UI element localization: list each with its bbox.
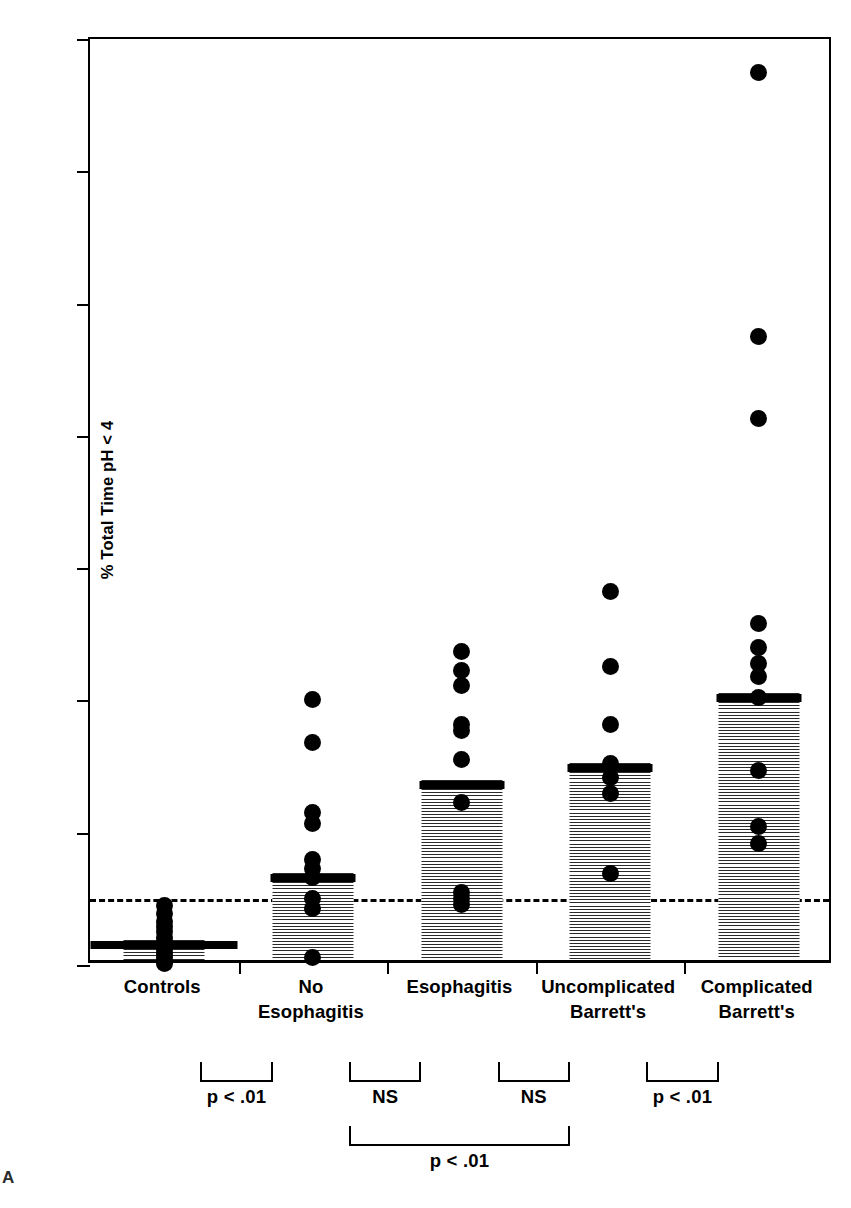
data-point	[304, 900, 321, 917]
figure-panel: % Total Time pH < 4 010203040506070 p < …	[0, 0, 851, 1208]
x-axis-category-label: ComplicatedBarrett's	[701, 974, 813, 1024]
data-point	[750, 410, 767, 427]
data-point	[750, 818, 767, 835]
x-axis-category-label-line: Controls	[124, 974, 201, 999]
x-axis-category-label: NoEsophagitis	[258, 974, 364, 1024]
x-axis-category-label-line: No	[258, 974, 364, 999]
y-axis-tick	[77, 39, 90, 41]
data-point	[304, 691, 321, 708]
significance-label: p < .01	[430, 1150, 490, 1172]
x-axis-category-label-line: Uncomplicated	[541, 974, 675, 999]
data-point	[602, 583, 619, 600]
data-point	[453, 896, 470, 913]
significance-label: p < .01	[207, 1086, 267, 1108]
data-point	[750, 328, 767, 345]
data-point	[304, 734, 321, 751]
data-point	[453, 751, 470, 768]
data-point	[453, 794, 470, 811]
x-axis-tick	[684, 960, 686, 974]
data-point	[453, 643, 470, 660]
significance-label: NS	[521, 1086, 547, 1108]
data-point	[304, 815, 321, 832]
data-point	[453, 662, 470, 679]
y-axis-tick	[77, 700, 90, 702]
y-axis-tick	[77, 833, 90, 835]
data-point	[750, 639, 767, 656]
data-point	[602, 865, 619, 882]
x-axis-tick	[536, 960, 538, 974]
data-point	[750, 615, 767, 632]
plot-area: 010203040506070	[90, 39, 829, 960]
data-point	[750, 64, 767, 81]
data-point	[602, 769, 619, 786]
y-axis-tick	[77, 171, 90, 173]
data-point	[453, 677, 470, 694]
significance-bracket	[646, 1062, 719, 1082]
data-point	[602, 716, 619, 733]
x-axis-category-label: Controls	[124, 974, 201, 999]
x-axis-category-label-line: Barrett's	[541, 999, 675, 1024]
data-point	[602, 785, 619, 802]
y-axis-tick	[77, 436, 90, 438]
data-point	[750, 668, 767, 685]
significance-bracket	[200, 1062, 273, 1082]
significance-bracket	[349, 1062, 422, 1082]
x-axis-tick	[239, 960, 241, 974]
x-axis-category-label-line: Barrett's	[701, 999, 813, 1024]
x-axis-tick	[387, 960, 389, 974]
y-axis-tick	[77, 568, 90, 570]
x-axis-category-label: UncomplicatedBarrett's	[541, 974, 675, 1024]
data-point	[156, 955, 173, 972]
panel-letter: A	[2, 1168, 14, 1188]
x-axis-category-label-line: Complicated	[701, 974, 813, 999]
data-point	[304, 949, 321, 966]
data-point	[750, 835, 767, 852]
plot-frame: % Total Time pH < 4 010203040506070	[88, 37, 831, 963]
data-point	[602, 658, 619, 675]
bar-mean-line	[419, 781, 504, 789]
y-axis-tick	[77, 965, 90, 967]
x-axis-category-label-line: Esophagitis	[407, 974, 513, 999]
x-axis-category-label: Esophagitis	[407, 974, 513, 999]
y-axis-tick	[77, 304, 90, 306]
significance-bracket	[498, 1062, 571, 1082]
significance-bracket	[349, 1126, 570, 1146]
significance-label: NS	[372, 1086, 398, 1108]
data-point	[453, 722, 470, 739]
significance-label: p < .01	[653, 1086, 713, 1108]
x-axis-category-label-line: Esophagitis	[258, 999, 364, 1024]
